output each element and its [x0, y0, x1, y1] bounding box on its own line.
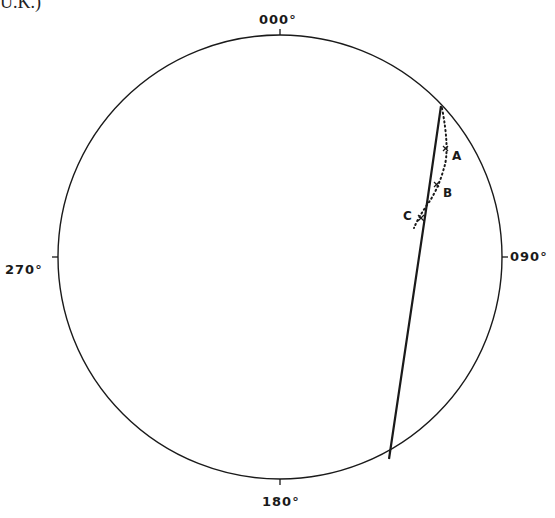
label-north: 000° — [259, 12, 297, 27]
point-b-marker — [434, 182, 439, 187]
point-c-marker — [418, 215, 424, 221]
point-a-label: A — [452, 149, 462, 163]
great-circle-line — [389, 106, 441, 459]
label-west: 270° — [5, 262, 43, 277]
point-c-label: C — [403, 209, 412, 223]
point-b-label: B — [443, 186, 452, 200]
dotted-arc — [414, 108, 447, 228]
stereonet-diagram: A B C — [0, 0, 555, 518]
label-east: 090° — [510, 249, 548, 264]
label-south: 180° — [262, 494, 300, 509]
primitive-circle — [58, 35, 502, 479]
